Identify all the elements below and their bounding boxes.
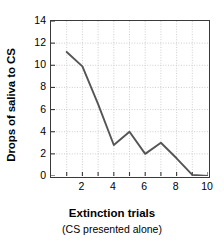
chart-figure: Drops of saliva to CS 02468101214 246810… xyxy=(0,0,224,244)
y-axis-tick-labels: 02468101214 xyxy=(20,20,46,178)
x-tick-label: 2 xyxy=(78,180,84,192)
y-tick-label: 0 xyxy=(20,170,46,180)
y-tick-label: 6 xyxy=(20,104,46,114)
x-tick-label: 6 xyxy=(141,180,147,192)
data-line-svg xyxy=(51,21,208,176)
x-tick-label: 8 xyxy=(173,180,179,192)
y-tick-label: 12 xyxy=(20,37,46,47)
x-axis-tick-labels: 246810 xyxy=(50,180,210,194)
y-tick-label: 2 xyxy=(20,148,46,158)
x-tick-label: 10 xyxy=(201,180,213,192)
y-axis-title: Drops of saliva to CS xyxy=(2,20,20,190)
data-series-line xyxy=(67,52,208,176)
y-tick-label: 10 xyxy=(20,59,46,69)
y-tick-label: 14 xyxy=(20,15,46,25)
plot-area xyxy=(50,20,210,178)
x-axis-subtitle: (CS presented alone) xyxy=(0,223,224,235)
y-tick-label: 4 xyxy=(20,126,46,136)
x-tick-label: 4 xyxy=(110,180,116,192)
x-axis-title: Extinction trials xyxy=(0,207,224,219)
y-tick-label: 8 xyxy=(20,81,46,91)
